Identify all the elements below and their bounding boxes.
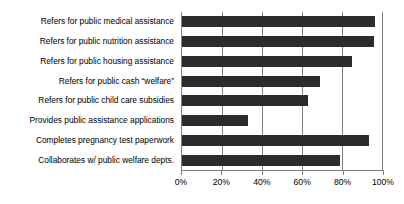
- bar-row: [182, 12, 382, 32]
- axis-tick-label: 0%: [175, 177, 187, 187]
- plot-area: [181, 12, 383, 170]
- category-label: Provides public assistance applications: [30, 116, 174, 125]
- category-label-row: Collaborates w/ public welfare depts.: [0, 150, 178, 170]
- category-label: Refers for public medical assistance: [41, 17, 174, 26]
- axis-tick-label: 60%: [294, 177, 311, 187]
- bar: [182, 76, 320, 87]
- axis-tick-label: 40%: [253, 177, 270, 187]
- axis-tick: [262, 170, 263, 175]
- category-label-row: Completes pregnancy test paperwork: [0, 131, 178, 151]
- category-label-row: Refers for public medical assistance: [0, 12, 178, 32]
- value-axis-labels: 0%20%40%60%80%100%: [0, 177, 404, 191]
- category-label: Collaborates w/ public welfare depts.: [38, 156, 174, 165]
- category-label-row: Refers for public nutrition assistance: [0, 32, 178, 52]
- axis-tick-label: 80%: [334, 177, 351, 187]
- category-label-row: Refers for public child care subsidies: [0, 91, 178, 111]
- bar: [182, 56, 352, 67]
- axis-tick: [181, 170, 182, 175]
- bar-row: [182, 32, 382, 52]
- axis-tick: [221, 170, 222, 175]
- axis-tick-label: 20%: [213, 177, 230, 187]
- bar-row: [182, 52, 382, 72]
- axis-tick-label: 100%: [372, 177, 394, 187]
- bar: [182, 95, 308, 106]
- bar: [182, 115, 248, 126]
- category-label: Refers for public child care subsidies: [38, 96, 174, 105]
- bars-layer: [182, 12, 382, 170]
- horizontal-bar-chart: Refers for public medical assistance Ref…: [0, 0, 404, 204]
- bar-row: [182, 150, 382, 170]
- axis-tick: [383, 170, 384, 175]
- bar: [182, 155, 340, 166]
- category-label: Completes pregnancy test paperwork: [36, 136, 174, 145]
- category-label-row: Refers for public housing assistance: [0, 52, 178, 72]
- category-axis: Refers for public medical assistance Ref…: [0, 12, 178, 170]
- bar-row: [182, 111, 382, 131]
- category-label-row: Refers for public cash “welfare”: [0, 71, 178, 91]
- axis-tick: [302, 170, 303, 175]
- axis-tick: [343, 170, 344, 175]
- bar: [182, 36, 374, 47]
- bar-row: [182, 91, 382, 111]
- category-label: Refers for public housing assistance: [40, 57, 174, 66]
- bar-row: [182, 71, 382, 91]
- bar-row: [182, 131, 382, 151]
- category-label: Refers for public cash “welfare”: [59, 77, 174, 86]
- value-axis-ticks: [181, 170, 384, 175]
- bar: [182, 16, 375, 27]
- category-label: Refers for public nutrition assistance: [40, 37, 174, 46]
- bar: [182, 135, 369, 146]
- category-label-row: Provides public assistance applications: [0, 111, 178, 131]
